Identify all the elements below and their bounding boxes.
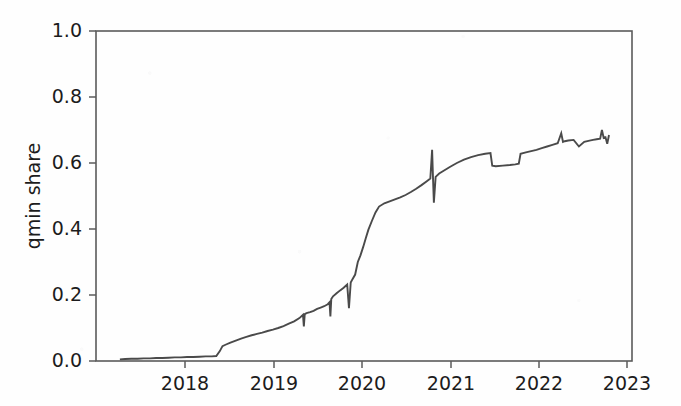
x-tick-label: 2018	[161, 372, 209, 394]
y-axis-tickmarks	[89, 31, 96, 361]
qmin-share-series	[120, 130, 609, 359]
y-tick-label: 0.2	[52, 283, 82, 305]
y-axis-ticklabels: 0.0 0.2 0.4 0.6 0.8 1.0	[52, 19, 82, 371]
x-tick-label: 2021	[427, 372, 475, 394]
qmin-share-line-chart: 0.0 0.2 0.4 0.6 0.8 1.0 2018 2019 2020 2…	[0, 0, 681, 406]
x-tick-label: 2022	[515, 372, 563, 394]
y-tick-label: 0.6	[52, 151, 82, 173]
chart-figure: 0.0 0.2 0.4 0.6 0.8 1.0 2018 2019 2020 2…	[0, 0, 681, 406]
y-tick-label: 0.4	[52, 217, 82, 239]
y-axis-title: qmin share	[22, 143, 44, 250]
x-axis-ticklabels: 2018 2019 2020 2021 2022 2023	[161, 372, 651, 394]
plot-frame	[96, 31, 632, 361]
y-tick-label: 0.8	[52, 85, 82, 107]
x-axis-tickmarks	[185, 361, 627, 368]
y-tick-label: 0.0	[52, 349, 82, 371]
x-tick-label: 2023	[603, 372, 651, 394]
x-tick-label: 2020	[338, 372, 386, 394]
y-tick-label: 1.0	[52, 19, 82, 41]
x-tick-label: 2019	[250, 372, 298, 394]
